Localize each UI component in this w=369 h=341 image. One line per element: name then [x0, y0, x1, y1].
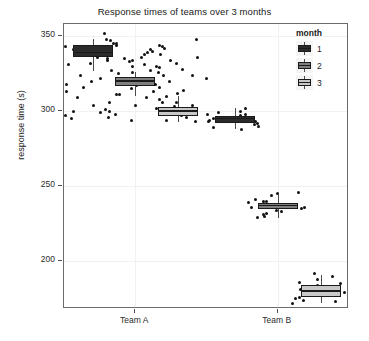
legend-item-month-3[interactable]: 3 — [292, 75, 366, 90]
data-point — [108, 110, 111, 113]
median-line — [215, 118, 255, 120]
legend-key-icon — [296, 75, 313, 90]
data-point — [123, 57, 126, 60]
data-point — [176, 92, 179, 95]
data-point — [128, 60, 131, 63]
data-point — [149, 48, 152, 51]
data-point — [145, 96, 148, 99]
data-point — [108, 101, 111, 104]
data-point — [158, 86, 161, 89]
data-point — [110, 69, 113, 72]
data-point — [82, 86, 85, 89]
whisker-upper — [278, 194, 279, 203]
whisker-upper — [235, 108, 236, 116]
data-point — [158, 98, 161, 101]
legend-key-icon — [296, 41, 313, 56]
median-line — [115, 80, 155, 82]
data-point — [106, 59, 109, 62]
data-point — [157, 71, 160, 74]
gridline-horizontal — [64, 261, 347, 262]
data-point — [313, 272, 316, 275]
data-point — [247, 201, 250, 204]
data-point — [244, 107, 247, 110]
x-tick-mark — [277, 309, 278, 313]
gridline-vertical — [135, 24, 136, 307]
data-point — [212, 126, 215, 129]
data-point — [117, 72, 120, 75]
median-line — [258, 205, 298, 207]
whisker-lower — [135, 86, 136, 97]
legend-label: 1 — [317, 44, 322, 54]
data-point — [270, 194, 273, 197]
data-point — [134, 104, 137, 107]
legend-key-icon — [296, 58, 313, 73]
data-point — [70, 117, 73, 120]
legend-label: 3 — [317, 78, 322, 88]
data-point — [291, 302, 294, 305]
data-point — [131, 71, 134, 74]
y-tick-label: 300 — [27, 104, 55, 114]
data-point — [263, 215, 266, 218]
data-point — [206, 113, 209, 116]
data-point — [194, 120, 197, 123]
data-point — [99, 111, 102, 114]
whisker-upper — [321, 275, 322, 286]
data-point — [334, 300, 337, 303]
data-point — [294, 297, 297, 300]
data-point — [105, 38, 108, 41]
data-point — [90, 80, 93, 83]
data-point — [130, 87, 133, 90]
data-point — [131, 65, 134, 68]
data-point — [302, 299, 305, 302]
y-tick-mark — [58, 35, 62, 36]
data-point — [130, 119, 133, 122]
chart-root: Response times of teams over 3 months re… — [0, 0, 369, 341]
data-point — [205, 77, 208, 80]
legend: month 123 — [292, 28, 366, 92]
data-point — [217, 111, 220, 114]
legend-title: month — [296, 28, 366, 38]
gridline-vertical — [278, 24, 279, 307]
data-point — [253, 123, 256, 126]
data-point — [158, 44, 161, 47]
data-point — [254, 198, 257, 201]
y-tick-mark — [58, 110, 62, 111]
gridline-horizontal — [64, 186, 347, 187]
data-point — [175, 62, 178, 65]
data-point — [182, 89, 185, 92]
legend-entries: 123 — [292, 41, 366, 90]
median-line — [158, 110, 198, 112]
data-point — [64, 45, 67, 48]
whisker-upper — [178, 96, 179, 107]
whisker-lower — [235, 123, 236, 129]
data-point — [92, 104, 95, 107]
data-point — [162, 74, 165, 77]
data-point — [265, 212, 268, 215]
data-point — [298, 281, 301, 284]
data-point — [152, 90, 155, 93]
data-point — [165, 95, 168, 98]
x-tick-label: Team B — [237, 315, 317, 325]
legend-item-month-1[interactable]: 1 — [292, 41, 366, 56]
x-tick-mark — [134, 309, 135, 313]
data-point — [185, 116, 188, 119]
data-point — [63, 66, 64, 69]
legend-item-month-2[interactable]: 2 — [292, 58, 366, 73]
gridline-horizontal — [64, 111, 347, 112]
data-point — [207, 120, 210, 123]
data-point — [107, 116, 110, 119]
data-point — [191, 74, 194, 77]
whisker-lower — [178, 116, 179, 122]
data-point — [65, 83, 68, 86]
x-tick-label: Team A — [94, 315, 174, 325]
data-point — [99, 77, 102, 80]
page-title: Response times of teams over 3 months — [0, 6, 369, 17]
median-line — [301, 290, 341, 292]
legend-label: 2 — [317, 61, 322, 71]
data-point — [240, 128, 243, 131]
data-point — [131, 59, 134, 62]
data-point — [331, 275, 334, 278]
median-line — [73, 52, 113, 54]
data-point — [343, 291, 346, 294]
data-point — [104, 108, 107, 111]
